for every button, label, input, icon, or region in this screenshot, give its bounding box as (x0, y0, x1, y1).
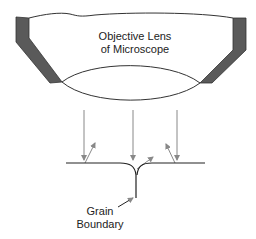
lens-element (62, 66, 200, 101)
right-housing (200, 18, 246, 83)
left-housing (16, 17, 62, 83)
lens-top-edge (29, 13, 233, 18)
grain-boundary-label: Grain Boundary (70, 205, 130, 231)
lens-label: Objective Lens of Microscope (85, 30, 185, 56)
specimen-surface (66, 163, 136, 198)
